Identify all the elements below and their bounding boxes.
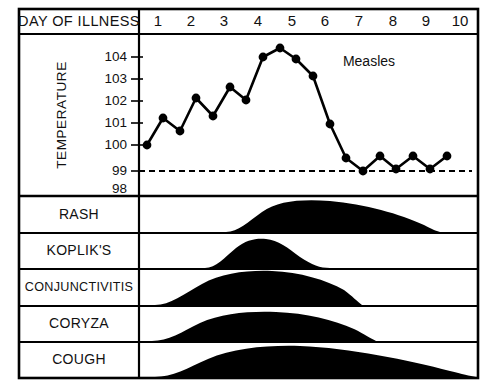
symptom-label-cough: COUGH — [52, 351, 106, 367]
temperature-point-9 — [276, 44, 285, 53]
day-number-3: 3 — [220, 12, 228, 29]
day-number-1: 1 — [154, 12, 162, 29]
day-number-8: 8 — [389, 12, 397, 29]
temperature-point-16 — [392, 165, 401, 174]
temperature-point-19 — [443, 152, 452, 161]
temp-tick-101: 101 — [104, 115, 127, 130]
temperature-point-17 — [409, 152, 418, 161]
temperature-point-12 — [326, 120, 335, 129]
temp-tick-102: 102 — [104, 93, 127, 108]
temperature-point-14 — [359, 167, 368, 176]
temperature-point-3 — [176, 127, 185, 136]
day-number-6: 6 — [321, 12, 329, 29]
day-number-10: 10 — [452, 12, 469, 29]
temperature-point-10 — [292, 55, 301, 64]
temperature-point-1 — [143, 141, 152, 150]
temperature-point-18 — [426, 165, 435, 174]
measles-annotation: Measles — [343, 53, 395, 69]
temp-tick-103: 103 — [104, 71, 127, 86]
symptom-label-rash: RASH — [59, 206, 99, 222]
temperature-point-4 — [192, 94, 201, 103]
day-number-5: 5 — [288, 12, 296, 29]
temperature-point-2 — [159, 114, 168, 123]
temperature-axis-title: TEMPERATURE — [54, 61, 69, 169]
temp-tick-99: 99 — [112, 163, 127, 178]
temp-tick-100: 100 — [104, 137, 127, 152]
symptom-label-kopliks: KOPLIK'S — [47, 242, 112, 258]
temperature-point-6 — [226, 83, 235, 92]
temperature-point-13 — [342, 154, 351, 163]
temperature-point-5 — [209, 112, 218, 121]
temperature-point-8 — [259, 53, 268, 62]
day-number-2: 2 — [187, 12, 195, 29]
temperature-point-15 — [376, 152, 385, 161]
symptom-label-conjunctivitis: CONJUNCTIVITIS — [25, 280, 133, 294]
temp-tick-104: 104 — [104, 49, 127, 64]
day-number-4: 4 — [254, 12, 262, 29]
temp-tick-98: 98 — [112, 181, 127, 196]
day-number-9: 9 — [422, 12, 430, 29]
day-number-7: 7 — [355, 12, 363, 29]
day-of-illness-label: DAY OF ILLNESS — [18, 13, 140, 29]
measles-clinical-chart: DAY OF ILLNESS 1 2 3 4 5 6 7 8 9 10 TEMP… — [0, 0, 493, 387]
symptom-label-coryza: CORYZA — [49, 315, 109, 331]
chart-canvas: DAY OF ILLNESS 1 2 3 4 5 6 7 8 9 10 TEMP… — [0, 0, 493, 387]
temperature-point-11 — [309, 72, 318, 81]
temperature-point-7 — [242, 96, 251, 105]
